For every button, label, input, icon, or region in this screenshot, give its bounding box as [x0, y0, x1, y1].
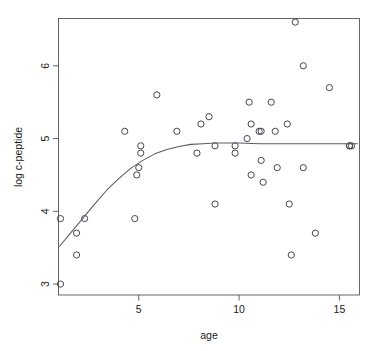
x-tick-label: 15 [334, 303, 346, 315]
x-tick-label: 10 [233, 303, 245, 315]
y-axis-title: log c-peptide [12, 127, 24, 187]
x-tick-label: 5 [136, 303, 142, 315]
scatter-plot-figure: 51015 3456 age log c-peptide [0, 0, 377, 351]
y-tick-label: 3 [39, 281, 51, 287]
y-tick-label: 5 [39, 135, 51, 141]
y-tick-label: 6 [39, 63, 51, 69]
plot-background [0, 0, 377, 351]
y-tick-label: 4 [39, 208, 51, 214]
plot-canvas: 51015 3456 age log c-peptide [0, 0, 377, 351]
x-axis-title: age [200, 329, 218, 341]
